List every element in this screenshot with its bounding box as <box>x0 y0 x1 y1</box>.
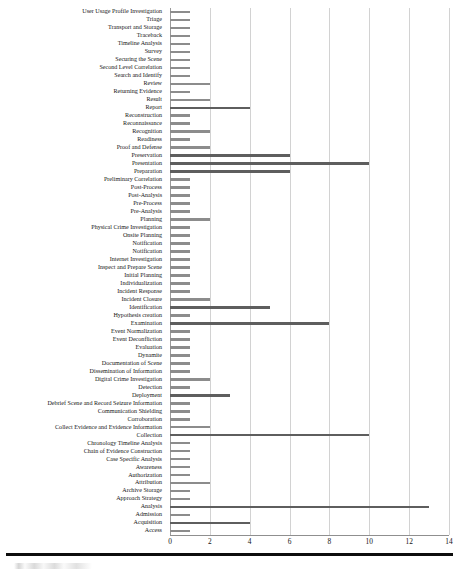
bar <box>170 154 290 157</box>
category-label: Incident Response <box>117 288 162 295</box>
bar <box>170 274 190 277</box>
category-label: Notification <box>133 240 162 247</box>
bar <box>170 394 230 397</box>
bar <box>170 91 190 94</box>
bar <box>170 314 190 317</box>
bar <box>170 75 190 78</box>
bar <box>170 242 190 245</box>
bar <box>170 370 190 373</box>
category-label: Internet Investigation <box>110 256 162 263</box>
bar <box>170 466 190 469</box>
bar <box>170 107 250 110</box>
bar <box>170 530 190 533</box>
bar <box>170 330 190 333</box>
bar <box>170 282 190 285</box>
bar <box>170 362 190 365</box>
x-tick-label-14: 14 <box>445 537 452 547</box>
bar <box>170 506 429 509</box>
category-label: Identification <box>129 304 162 311</box>
category-label: Second Level Correlation <box>99 64 162 71</box>
bar <box>170 458 190 461</box>
bar <box>170 250 190 253</box>
bar-chart: User Usage Profile InvestigationTriageTr… <box>0 0 457 573</box>
bar <box>170 138 190 141</box>
category-label: Pre-Process <box>133 200 162 207</box>
bar <box>170 202 190 205</box>
bar <box>170 234 190 237</box>
category-label: Event Normalization <box>111 328 162 335</box>
bar <box>170 418 190 421</box>
category-label: Triage <box>146 16 162 23</box>
category-label: Event Deconfliction <box>113 336 162 343</box>
bar <box>170 226 190 229</box>
x-axis-line <box>170 535 449 536</box>
category-label: Pre-Analysis <box>131 208 162 215</box>
x-tick-label-8: 8 <box>328 537 332 547</box>
bar <box>170 178 190 181</box>
category-label: Approach Strategy <box>116 495 162 502</box>
category-label: Collection <box>137 432 162 439</box>
category-axis-labels: User Usage Profile InvestigationTriageTr… <box>0 8 166 535</box>
category-label: Communication Shielding <box>98 408 162 415</box>
category-label: Preliminary Correlation <box>104 176 162 183</box>
bar <box>170 11 190 14</box>
x-tick-label-2: 2 <box>208 537 212 547</box>
bar <box>170 298 210 301</box>
category-label: Preparation <box>134 168 162 175</box>
category-label: Collect Evidence and Evidence Informatio… <box>55 424 162 431</box>
bar <box>170 194 190 197</box>
category-label: Onsite Planning <box>123 232 162 239</box>
bar <box>170 306 270 309</box>
bar <box>170 122 190 125</box>
bar <box>170 410 190 413</box>
bar <box>170 146 210 149</box>
category-label: Planning <box>140 216 162 223</box>
category-label: Post-Analysis <box>128 192 162 199</box>
category-label: Incident Closure <box>122 296 162 303</box>
bar <box>170 83 210 86</box>
bar <box>170 290 190 293</box>
category-label: Presentation <box>132 160 162 167</box>
category-label: Reconstruction <box>125 112 162 119</box>
bar <box>170 322 329 325</box>
category-label: Report <box>145 104 162 111</box>
category-label: Individualization <box>120 280 162 287</box>
bar <box>170 426 210 429</box>
x-tick-label-6: 6 <box>288 537 292 547</box>
category-label: Debrief Scene and Record Seizure Informa… <box>47 400 162 407</box>
category-label: Deployment <box>132 392 162 399</box>
category-label: Transport and Storage <box>108 24 162 31</box>
category-label: Attribution <box>135 479 162 486</box>
category-label: Dynamite <box>138 352 162 359</box>
category-label: Initial Planning <box>124 272 162 279</box>
bar <box>170 514 190 517</box>
x-tick-label-0: 0 <box>168 537 172 547</box>
bar <box>170 378 210 381</box>
bars-layer <box>170 8 449 535</box>
bar <box>170 450 190 453</box>
bar <box>170 218 210 221</box>
category-label: Acquisition <box>134 519 162 526</box>
x-tick-label-10: 10 <box>366 537 373 547</box>
bar <box>170 35 190 38</box>
page-bottom-smudge <box>14 563 92 569</box>
category-label: Admission <box>136 511 162 518</box>
page-bottom-rule <box>6 553 453 556</box>
category-label: Dissemination of Information <box>90 368 162 375</box>
category-label: Authorization <box>128 472 162 479</box>
x-tick-label-4: 4 <box>248 537 252 547</box>
category-label: Traceback <box>137 32 162 39</box>
category-label: Digital Crime Investigation <box>95 376 162 383</box>
bar <box>170 354 190 357</box>
bar <box>170 522 250 525</box>
bar <box>170 442 190 445</box>
category-label: Physical Crime Investigation <box>91 224 162 231</box>
bar <box>170 67 190 70</box>
bar <box>170 434 369 437</box>
category-label: Post-Process <box>131 184 162 191</box>
bar <box>170 51 190 54</box>
bar <box>170 27 190 30</box>
category-label: Timeline Analysis <box>118 40 162 47</box>
gridline-14 <box>449 8 450 535</box>
category-label: Result <box>146 96 162 103</box>
